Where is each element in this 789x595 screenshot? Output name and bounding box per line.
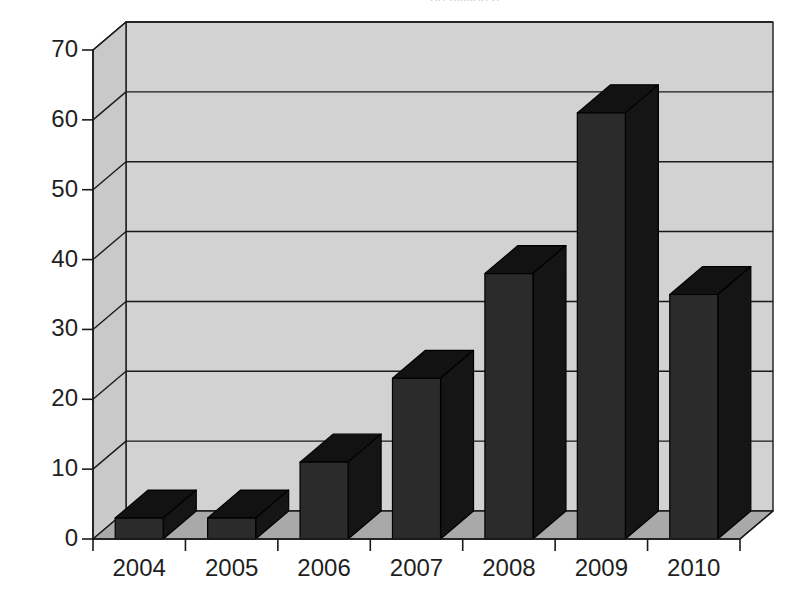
bar-front-face-2010 [670,295,718,540]
y-tick-label-70: 70 [30,37,78,61]
bar-side-face-2009 [625,85,658,539]
bar-side-face-2008 [533,246,566,539]
bar-side-face-2010 [718,267,751,540]
bar-front-face-2007 [392,378,440,539]
bar-side-face-2007 [441,350,474,539]
bar-front-face-2006 [300,462,348,539]
x-tick-label-2009: 2009 [555,556,647,580]
y-tick-label-0: 0 [30,526,78,550]
x-tick-label-2006: 2006 [278,556,370,580]
y-tick-label-40: 40 [30,247,78,271]
y-tick-label-30: 30 [30,316,78,340]
y-tick-label-50: 50 [30,177,78,201]
x-tick-label-2007: 2007 [371,556,463,580]
bar-2009 [577,85,658,539]
chart-canvas [0,0,789,595]
bar-chart-figure: (in millions) 010203040506070 2004200520… [0,0,789,595]
x-tick-label-2004: 2004 [93,556,185,580]
bar-front-face-2005 [208,518,256,539]
plot-area [0,0,789,595]
bar-front-face-2008 [485,274,533,539]
bar-front-face-2004 [115,518,163,539]
y-tick-label-10: 10 [30,456,78,480]
bar-front-face-2009 [577,113,625,539]
x-tick-label-2008: 2008 [463,556,555,580]
bar-2010 [670,267,751,540]
chart-left-wall [93,22,126,539]
bar-2008 [485,246,566,539]
bar-2007 [392,350,473,539]
y-tick-label-20: 20 [30,386,78,410]
x-tick-label-2005: 2005 [186,556,278,580]
x-tick-label-2010: 2010 [648,556,740,580]
y-tick-label-60: 60 [30,107,78,131]
